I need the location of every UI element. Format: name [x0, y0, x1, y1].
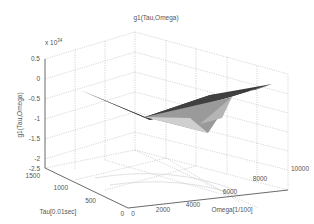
z-axis-label: g1(Tau,Omega) [16, 92, 24, 137]
svg-text:1000: 1000 [54, 184, 69, 191]
z-ticks: 0.5 0 -0.5 -1 -1.5 -2 -2.5 [29, 55, 41, 172]
chart-title: g1(Tau,Omega) [133, 14, 178, 22]
svg-text:0: 0 [120, 210, 124, 217]
svg-text:-0.5: -0.5 [29, 95, 41, 102]
svg-text:-2: -2 [34, 155, 40, 162]
svg-text:8000: 8000 [253, 175, 268, 182]
axes-frame [45, 59, 288, 208]
svg-text:500: 500 [85, 197, 96, 204]
x-axis-label: Omega[1/100] [211, 206, 252, 214]
svg-text:1500: 1500 [26, 172, 41, 179]
y-axis-label: Tau[0.01sec] [40, 208, 77, 216]
svg-text:10000: 10000 [291, 165, 309, 172]
floor-contours [95, 174, 240, 196]
svg-text:4000: 4000 [186, 201, 201, 208]
surface [80, 84, 272, 133]
svg-text:0.5: 0.5 [31, 55, 40, 62]
svg-text:6000: 6000 [223, 188, 238, 195]
z-multiplier: x 1034 [45, 38, 63, 46]
svg-text:0: 0 [131, 210, 135, 217]
surface-chart: g1(Tau,Omega) x 1034 0.5 0 -0.5 -1 -1.5 … [0, 0, 314, 224]
svg-text:-1: -1 [34, 115, 40, 122]
svg-text:0: 0 [36, 75, 40, 82]
svg-text:-1.5: -1.5 [29, 135, 41, 142]
svg-text:-2.5: -2.5 [29, 165, 41, 172]
svg-text:2000: 2000 [156, 206, 171, 213]
